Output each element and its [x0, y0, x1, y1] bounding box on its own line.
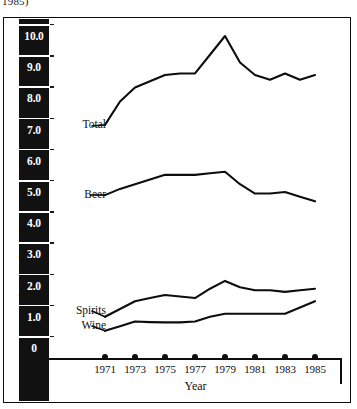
y-tick-label: 7.0 [19, 124, 49, 136]
y-tick-label: 2.0 [19, 280, 49, 292]
y-tick-label: 8.0 [19, 92, 49, 104]
series-label-total: Total [58, 118, 106, 131]
x-axis-title: Year [49, 379, 342, 393]
x-tick-dot [192, 354, 198, 360]
y-tick-rule [19, 242, 49, 244]
series-line-beer [105, 172, 315, 202]
series-line-spirits [105, 281, 315, 317]
series-line-wine [105, 301, 315, 331]
y-tick-label: 5.0 [19, 186, 49, 198]
y-tick-label: 6.0 [19, 155, 49, 167]
y-tick-label: 4.0 [19, 217, 49, 229]
y-tick-label: 0 [19, 342, 49, 354]
x-tick-label: 1985 [295, 363, 335, 376]
y-tick-rule [19, 336, 49, 338]
x-tick-dot [222, 354, 228, 360]
caption-fragment: 1985) [2, 0, 29, 7]
y-tick-rule [19, 86, 49, 88]
series-label-wine: Wine [52, 319, 106, 332]
y-tick-label: 3.0 [19, 248, 49, 260]
y-tick-rule [19, 305, 49, 307]
y-tick-label: 9.0 [19, 61, 49, 73]
x-tick-dot [252, 354, 258, 360]
y-tick-rule [19, 180, 49, 182]
y-tick-label: 10.0 [19, 30, 49, 42]
y-tick-rule [19, 24, 49, 26]
y-tick-rule [19, 211, 49, 213]
series-line-total [105, 36, 315, 125]
y-tick-label: 1.0 [19, 311, 49, 323]
x-tick-dot [312, 354, 318, 360]
x-tick-dot [102, 354, 108, 360]
x-tick-dot [162, 354, 168, 360]
y-tick-rule [19, 149, 49, 151]
y-tick-rule [19, 274, 49, 276]
x-tick-dot [282, 354, 288, 360]
series-label-spirits: Spirits [52, 304, 106, 317]
y-tick-rule [19, 118, 49, 120]
x-tick-dot [132, 354, 138, 360]
series-label-beer: Beer [58, 188, 106, 201]
y-tick-rule [19, 55, 49, 57]
